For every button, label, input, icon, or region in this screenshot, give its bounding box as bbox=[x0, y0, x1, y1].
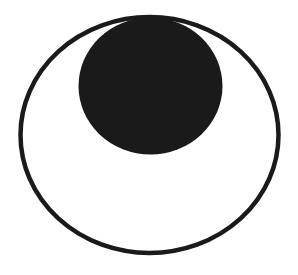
diagram-svg bbox=[0, 0, 298, 275]
diagram-canvas bbox=[0, 0, 298, 275]
inner-filled-ellipse bbox=[79, 18, 223, 155]
